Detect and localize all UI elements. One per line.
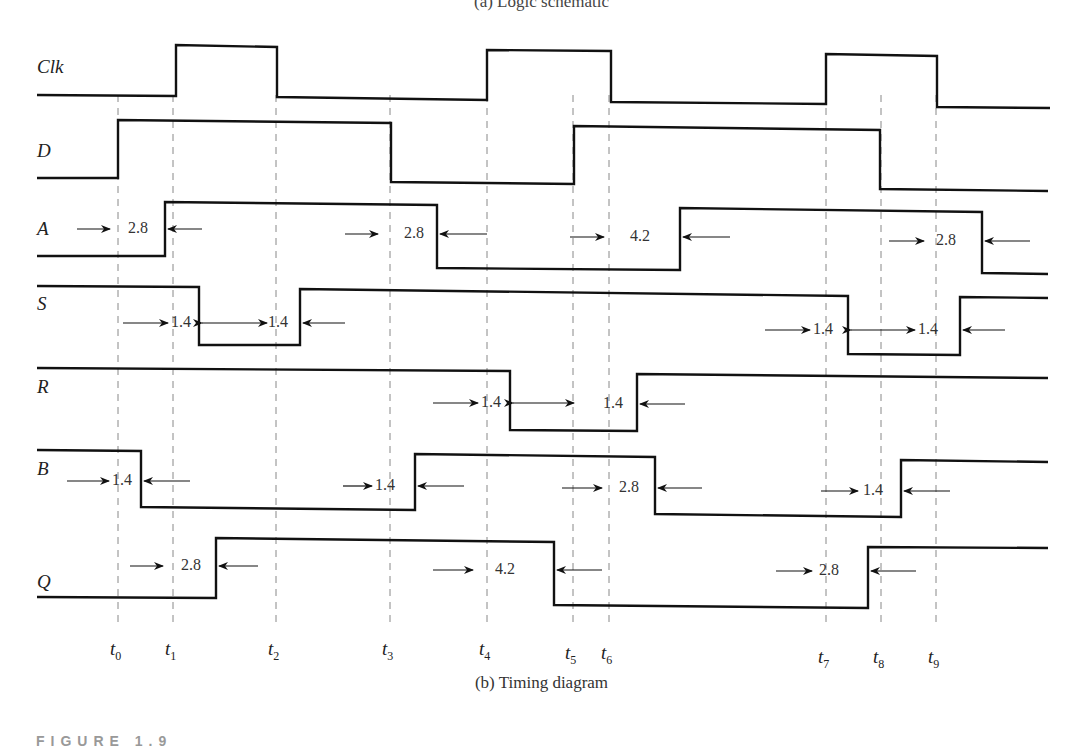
signal-label-q: Q — [37, 571, 51, 593]
waveform-a — [37, 202, 1048, 274]
time-marker-label: t9 — [928, 646, 939, 672]
time-marker-label: t2 — [268, 638, 279, 664]
waveform-d — [37, 120, 1048, 191]
delay-value-q: 2.8 — [819, 561, 839, 579]
delay-value-q: 2.8 — [181, 556, 201, 574]
time-marker-label: t7 — [818, 646, 829, 672]
delay-arrows — [67, 229, 1030, 571]
delay-value-a: 2.8 — [404, 224, 424, 242]
delay-value-s: 1.4 — [918, 320, 938, 338]
delay-value-b: 1.4 — [112, 471, 132, 489]
timing-caption: (b) Timing diagram — [0, 673, 1083, 693]
time-marker-label: t0 — [110, 638, 121, 664]
time-marker-label: t4 — [479, 638, 490, 664]
delay-value-s: 1.4 — [268, 313, 288, 331]
signal-label-s: S — [37, 293, 47, 315]
delay-value-b: 1.4 — [375, 476, 395, 494]
signal-label-b: B — [37, 458, 49, 480]
delay-value-a: 2.8 — [936, 231, 956, 249]
signal-label-r: R — [37, 376, 49, 398]
delay-value-a: 4.2 — [630, 227, 650, 245]
signal-label-clk: Clk — [37, 56, 63, 78]
delay-value-s: 1.4 — [813, 320, 833, 338]
delay-value-b: 2.8 — [619, 478, 639, 496]
time-marker-label: t1 — [165, 638, 176, 664]
time-marker-label: t5 — [565, 642, 576, 668]
signal-label-a: A — [37, 218, 49, 240]
delay-value-b: 1.4 — [863, 481, 883, 499]
delay-value-r: 1.4 — [603, 394, 623, 412]
signal-label-d: D — [37, 140, 51, 162]
waveform-b — [37, 450, 1048, 517]
time-marker-label: t6 — [601, 642, 612, 668]
delay-value-a: 2.8 — [128, 219, 148, 237]
figure-label: FIGURE 1.9 — [36, 733, 172, 749]
time-marker-label: t3 — [382, 638, 393, 664]
time-marker-label: t8 — [873, 646, 884, 672]
delay-value-s: 1.4 — [171, 313, 191, 331]
delay-value-r: 1.4 — [481, 393, 501, 411]
delay-value-q: 4.2 — [495, 560, 515, 578]
waveform-r — [37, 368, 1048, 431]
waveform-clk — [37, 45, 1050, 108]
time-guide-lines — [118, 95, 936, 628]
